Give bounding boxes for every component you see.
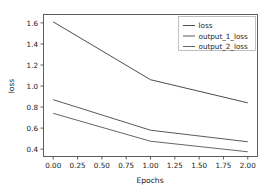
legend-label: output_1_loss [199, 32, 249, 41]
y-tick-label: 0.6 [27, 124, 39, 133]
legend-label: output_2_loss [199, 42, 249, 51]
y-tick-label: 0.4 [27, 145, 39, 154]
y-tick-label: 1.4 [27, 40, 39, 49]
x-tick-label: 1.25 [167, 161, 183, 170]
x-tick-label: 2.00 [240, 161, 256, 170]
y-axis-title: loss [7, 79, 16, 94]
y-tick-label: 1.6 [27, 19, 39, 28]
x-tick-label: 0.75 [118, 161, 134, 170]
x-tick-label: 1.50 [191, 161, 207, 170]
y-tick-label: 1.2 [27, 61, 38, 70]
x-tick-label: 1.00 [142, 161, 158, 170]
legend-label: loss [199, 21, 213, 30]
x-tick-label: 1.75 [215, 161, 231, 170]
x-tick-label: 0.00 [45, 161, 61, 170]
matplotlib-figure: 0.000.250.500.751.001.251.501.752.00 0.4… [0, 0, 272, 194]
x-tick-label: 0.50 [94, 161, 110, 170]
y-tick-label: 1.0 [27, 82, 39, 91]
x-tick-label: 0.25 [70, 161, 86, 170]
x-axis-title: Epochs [136, 176, 163, 185]
y-tick-label: 0.8 [27, 103, 39, 112]
line-chart: 0.000.250.500.751.001.251.501.752.00 0.4… [0, 0, 272, 194]
chart-legend[interactable]: lossoutput_1_lossoutput_2_loss [179, 17, 256, 52]
